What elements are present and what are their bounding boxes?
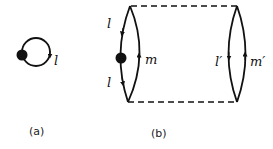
right-lens-l-prime-label: l′: [215, 54, 222, 69]
panel-a: l (a): [17, 38, 59, 138]
panel-b: l l m l′ m′ (b): [107, 6, 265, 140]
right-lens-left-arc: [229, 6, 238, 102]
vertex-dot-a: [17, 50, 28, 61]
caption-b: (b): [151, 127, 167, 140]
caption-a: (a): [29, 125, 44, 138]
left-lens-m-label: m: [145, 52, 157, 67]
right-lens-m-prime-label: m′: [250, 54, 265, 69]
left-lens-right-arc: [128, 6, 140, 102]
vertex-dot-b: [116, 53, 127, 64]
left-lens-upper-label: l: [107, 16, 111, 31]
feynman-diagram-figure: l (a) l l m l′ m′ (b): [0, 0, 273, 149]
right-lens-right-arc: [237, 6, 246, 102]
loop-a-label: l: [54, 53, 58, 68]
left-lens-lower-label: l: [107, 75, 111, 90]
